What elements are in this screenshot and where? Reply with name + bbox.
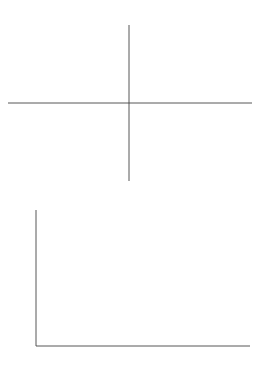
figure (0, 0, 276, 381)
bottom-plot (0, 0, 250, 346)
top-plot (8, 25, 252, 181)
